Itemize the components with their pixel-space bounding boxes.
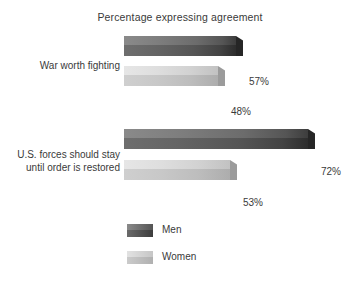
bar-1-men[interactable] xyxy=(124,129,315,149)
legend-label-women: Women xyxy=(162,251,196,262)
bar-1-women-top-face xyxy=(124,160,230,169)
bar-1-men-value-label: 72% xyxy=(321,166,341,177)
bar-0-women[interactable] xyxy=(124,66,225,86)
category-label-0-line-0: War worth fighting xyxy=(4,60,120,73)
bar-1-women[interactable] xyxy=(124,160,237,180)
bar-1-men-front-face xyxy=(124,138,308,149)
bar-0-men-front-face xyxy=(124,45,236,56)
legend-swatch-women xyxy=(127,251,153,264)
bar-1-men-top-face xyxy=(124,129,308,138)
bar-0-women-value-label: 48% xyxy=(231,106,251,117)
bar-0-men-end-cap xyxy=(236,36,243,56)
category-label-0: War worth fighting xyxy=(4,60,120,73)
bar-0-women-top-face xyxy=(124,66,218,75)
category-label-1-line-1: until order is restored xyxy=(4,162,120,175)
bar-1-men-end-cap xyxy=(308,129,315,149)
bar-1-women-end-cap xyxy=(230,160,237,180)
bar-0-women-end-cap xyxy=(218,66,225,86)
bar-1-women-front-face xyxy=(124,169,230,180)
category-label-1: U.S. forces should stay until order is r… xyxy=(4,149,120,174)
legend-swatch-men-front-face xyxy=(127,230,153,237)
bar-0-women-front-face xyxy=(124,75,218,86)
bar-0-men[interactable] xyxy=(124,36,243,56)
plot-area: War worth fighting 57% 48% xyxy=(0,0,360,281)
chart-container: Percentage expressing agreement War wort… xyxy=(0,0,360,281)
bar-0-men-top-face xyxy=(124,36,236,45)
legend-swatch-women-front-face xyxy=(127,257,153,264)
bar-0-women-body xyxy=(124,66,218,86)
bar-1-women-body xyxy=(124,160,230,180)
bar-0-men-body xyxy=(124,36,236,56)
bar-0-men-value-label: 57% xyxy=(249,76,269,87)
bar-1-women-value-label: 53% xyxy=(243,197,263,208)
bar-1-men-body xyxy=(124,129,308,149)
legend-swatch-men xyxy=(127,224,153,237)
legend-label-men: Men xyxy=(162,224,181,235)
category-label-1-line-0: U.S. forces should stay xyxy=(4,149,120,162)
